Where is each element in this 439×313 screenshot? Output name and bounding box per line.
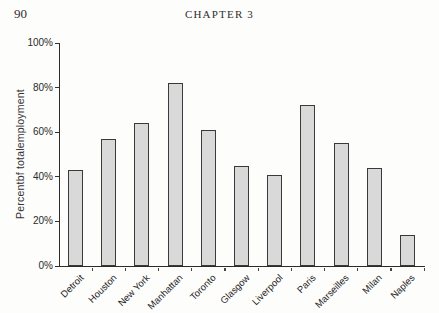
bar-toronto (201, 130, 216, 266)
bar-glasgow (234, 166, 249, 266)
x-tick-mark (224, 268, 225, 271)
x-tick-mark (324, 268, 325, 271)
y-tick-mark (55, 87, 59, 88)
x-tick-mark (92, 268, 93, 271)
bar-paris (300, 105, 315, 266)
y-tick-label: 100% (0, 37, 53, 49)
y-tick-label: 80% (0, 82, 53, 94)
x-tick-mark (390, 268, 391, 271)
x-tick-mark (357, 268, 358, 271)
bar-liverpool (267, 175, 282, 266)
y-tick-mark (55, 266, 59, 267)
y-tick-mark (55, 43, 59, 44)
bar-new-york (134, 123, 149, 266)
y-tick-label: 20% (0, 215, 53, 227)
x-tick-mark (424, 268, 425, 271)
y-tick-mark (55, 132, 59, 133)
bar-detroit (68, 170, 83, 266)
x-tick-mark (291, 268, 292, 271)
y-tick-mark (55, 176, 59, 177)
y-tick-label: 60% (0, 126, 53, 138)
chapter-header: CHAPTER 3 (0, 8, 439, 20)
book-page: 90 CHAPTER 3 Percentbf totalemployment 0… (0, 0, 439, 313)
bar-houston (101, 139, 116, 266)
x-tick-mark (158, 268, 159, 271)
x-tick-mark (125, 268, 126, 271)
bar-milan (367, 168, 382, 266)
x-tick-mark (258, 268, 259, 271)
y-tick-label: 40% (0, 171, 53, 183)
bar-marseilles (334, 143, 349, 266)
bar-naples (400, 235, 415, 266)
y-axis-title: Percentbf totalemployment (14, 89, 26, 219)
y-tick-mark (55, 221, 59, 222)
bar-manhattan (168, 83, 183, 266)
y-tick-label: 0% (0, 260, 53, 272)
x-tick-mark (191, 268, 192, 271)
